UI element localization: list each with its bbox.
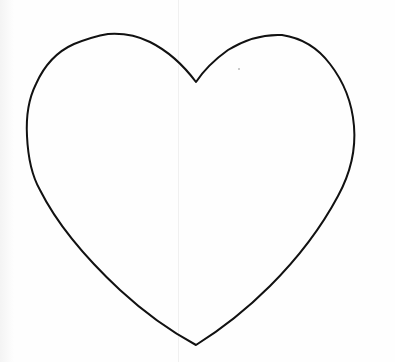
ink-speck xyxy=(238,68,240,70)
drawing-canvas xyxy=(0,0,395,362)
heart-outline xyxy=(27,34,355,345)
heart-icon xyxy=(0,0,395,362)
